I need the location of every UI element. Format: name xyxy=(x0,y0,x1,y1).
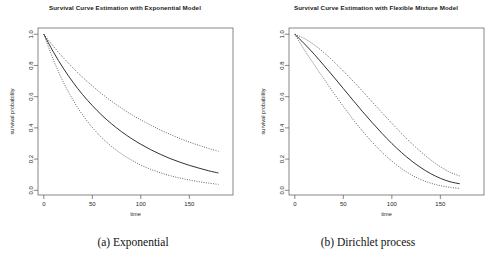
curve-dotted xyxy=(295,34,460,188)
figure-row: Survival Curve Estimation with Exponenti… xyxy=(0,0,501,228)
svg-text:100: 100 xyxy=(387,201,398,207)
svg-text:0.0: 0.0 xyxy=(279,185,285,194)
plot-canvas-exponential: 0.00.20.40.60.81.0050100150timesurvival … xyxy=(0,0,250,228)
curve-dotted xyxy=(44,34,219,184)
curve-dotted xyxy=(295,34,460,176)
svg-text:survival probability: survival probability xyxy=(260,88,266,134)
svg-text:0.8: 0.8 xyxy=(28,61,34,70)
svg-text:50: 50 xyxy=(340,201,347,207)
caption-subfigure-b: (b) Dirichlet process xyxy=(243,236,493,248)
svg-text:1.0: 1.0 xyxy=(279,29,285,38)
svg-text:0.0: 0.0 xyxy=(28,185,34,194)
svg-text:0.4: 0.4 xyxy=(28,123,34,132)
svg-text:0: 0 xyxy=(293,201,297,207)
svg-text:0.6: 0.6 xyxy=(28,92,34,101)
caption-row: (a) Exponential (b) Dirichlet process xyxy=(0,228,501,269)
curve-solid xyxy=(295,34,460,184)
svg-text:0.2: 0.2 xyxy=(279,154,285,163)
svg-text:1.0: 1.0 xyxy=(28,29,34,38)
svg-text:150: 150 xyxy=(435,201,446,207)
svg-text:0: 0 xyxy=(42,201,46,207)
curve-solid xyxy=(44,34,219,173)
svg-text:time: time xyxy=(130,211,141,217)
svg-text:survival probability: survival probability xyxy=(9,88,15,134)
svg-text:time: time xyxy=(381,211,392,217)
svg-text:0.8: 0.8 xyxy=(279,61,285,70)
svg-text:50: 50 xyxy=(89,201,96,207)
caption-subfigure-a: (a) Exponential xyxy=(8,236,258,248)
svg-text:100: 100 xyxy=(136,201,147,207)
subfigure-exponential: Survival Curve Estimation with Exponenti… xyxy=(0,0,250,228)
svg-text:0.6: 0.6 xyxy=(279,92,285,101)
plot-canvas-dirichlet: 0.00.20.40.60.81.0050100150timesurvival … xyxy=(251,0,501,228)
svg-text:0.2: 0.2 xyxy=(28,154,34,163)
svg-text:150: 150 xyxy=(184,201,195,207)
subfigure-dirichlet: Survival Curve Estimation with Flexible … xyxy=(251,0,501,228)
svg-text:0.4: 0.4 xyxy=(279,123,285,132)
curve-dotted xyxy=(44,34,219,151)
